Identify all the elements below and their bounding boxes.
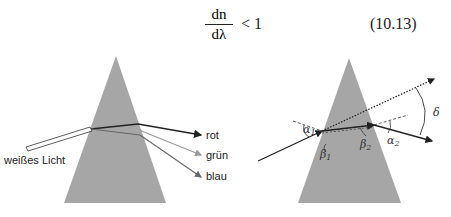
white-light-beam (26, 127, 92, 151)
delta-arc (416, 88, 425, 135)
prism-left (64, 56, 166, 203)
label-alpha1: α1 (303, 123, 316, 137)
dispersion-figure: weißes Licht rot grün blau (3, 56, 228, 203)
label-red: rot (206, 129, 219, 141)
label-alpha2: α2 (387, 134, 400, 148)
deviation-figure: α1 β1 β2 α2 δ (258, 58, 440, 203)
label-green: grün (206, 149, 228, 161)
label-delta: δ (433, 106, 440, 119)
label-white-light: weißes Licht (3, 154, 65, 166)
figures: weißes Licht rot grün blau α1 β1 β2 α2 δ (0, 0, 451, 217)
label-blue: blau (206, 170, 227, 182)
